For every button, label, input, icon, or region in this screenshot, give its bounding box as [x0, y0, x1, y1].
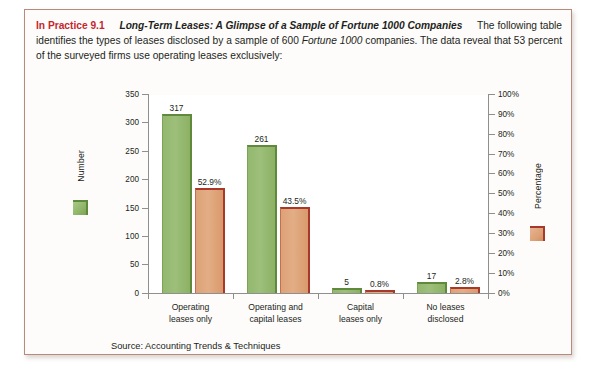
- in-practice-tag: In Practice 9.1: [36, 20, 105, 31]
- legend-swatch-number: [73, 200, 88, 215]
- x-category-label-no-leases-disclosed: No leases disclosed: [403, 302, 488, 325]
- in-practice-panel: In Practice 9.1 Long-Term Leases: A Glim…: [24, 9, 572, 355]
- left-tick-label: 100: [42, 232, 142, 241]
- legend-swatch-percentage: [530, 226, 545, 241]
- bar-number-operating-leases-only[interactable]: 317: [162, 114, 192, 293]
- in-practice-title: Long-Term Leases: A Glimpse of a Sample …: [119, 20, 462, 31]
- bar-percentage-operating-and-capital-leases[interactable]: 43.5%: [280, 207, 310, 293]
- bar-percentage-operating-leases-only[interactable]: 52.9%: [195, 188, 225, 293]
- body-text-italic: Fortune 1000: [302, 35, 363, 46]
- right-tick-label: 70%: [498, 150, 514, 159]
- category-line: leases only: [318, 314, 403, 326]
- right-tick-label: 60%: [498, 169, 514, 178]
- source-note: Source: Accounting Trends & Techniques: [111, 341, 280, 351]
- bar-value-label: 5: [344, 277, 349, 287]
- category-line: capital leases: [233, 314, 318, 326]
- x-category-label-operating-leases-only: Operating leases only: [148, 302, 233, 325]
- right-tick-label: 20%: [498, 249, 514, 258]
- bar-value-label: 261: [255, 134, 269, 144]
- right-tick-label: 30%: [498, 229, 514, 238]
- bar-number-capital-leases-only[interactable]: 5: [332, 288, 362, 293]
- bar-number-operating-and-capital-leases[interactable]: 261: [247, 145, 277, 293]
- right-tick-label: 10%: [498, 269, 514, 278]
- category-line: Operating: [148, 302, 233, 314]
- right-tick-label: 80%: [498, 130, 514, 139]
- lease-types-bar-chart: 350 300 250 200 150: [36, 78, 562, 348]
- left-tick-label: 0: [42, 289, 142, 298]
- bar-percentage-capital-leases-only[interactable]: 0.8%: [365, 290, 395, 294]
- left-tick-label: 300: [42, 118, 142, 127]
- category-line: Capital: [318, 302, 403, 314]
- panel-header-text: In Practice 9.1 Long-Term Leases: A Glim…: [36, 18, 562, 64]
- bar-value-label: 0.8%: [370, 279, 389, 289]
- left-tick-label: 150: [42, 204, 142, 213]
- category-line: Operating and: [233, 302, 318, 314]
- right-tick-label: 0%: [498, 289, 510, 298]
- x-category-label-capital-leases-only: Capital leases only: [318, 302, 403, 325]
- bar-value-label: 2.8%: [455, 276, 474, 286]
- bar-number-no-leases-disclosed[interactable]: 17: [417, 282, 447, 293]
- figure-page: In Practice 9.1 Long-Term Leases: A Glim…: [0, 0, 596, 379]
- bar-value-label: 52.9%: [198, 177, 222, 187]
- category-line: leases only: [148, 314, 233, 326]
- x-category-label-operating-and-capital-leases: Operating and capital leases: [233, 302, 318, 325]
- left-tick-label: 350: [42, 90, 142, 99]
- right-tick-label: 100%: [498, 90, 519, 99]
- left-tick-label: 50: [42, 260, 142, 269]
- bar-value-label: 17: [427, 271, 436, 281]
- category-line: No leases: [403, 302, 488, 314]
- left-tick-label: 250: [42, 147, 142, 156]
- bar-percentage-no-leases-disclosed[interactable]: 2.8%: [450, 287, 480, 294]
- left-axis-line: [148, 94, 149, 294]
- bar-value-label: 43.5%: [283, 196, 307, 206]
- right-tick-label: 50%: [498, 189, 514, 198]
- right-axis-title: Percentage: [533, 163, 543, 209]
- bar-value-label: 317: [170, 103, 184, 113]
- left-tick-label: 200: [42, 175, 142, 184]
- right-tick-label: 40%: [498, 209, 514, 218]
- left-axis-title: Number: [76, 150, 86, 182]
- right-tick-label: 90%: [498, 110, 514, 119]
- category-line: disclosed: [403, 314, 488, 326]
